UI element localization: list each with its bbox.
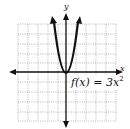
function-label-exponent: 2 bbox=[119, 75, 123, 83]
x-axis-label: x bbox=[120, 64, 125, 73]
function-label: f(x) = 3x2 bbox=[70, 75, 125, 89]
y-axis-label: y bbox=[64, 2, 69, 11]
coordinate-plane bbox=[0, 0, 130, 129]
function-label-text: f(x) = 3x bbox=[71, 76, 119, 89]
